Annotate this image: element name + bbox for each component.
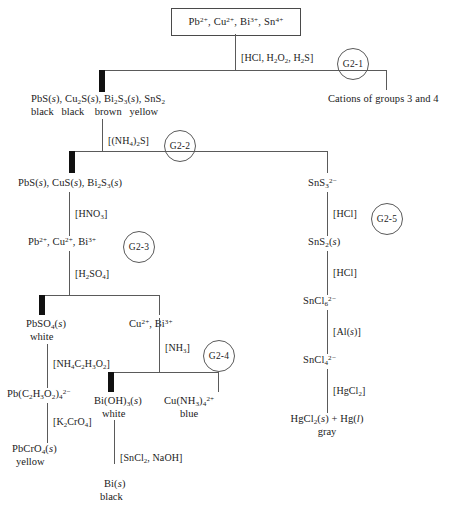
reagent-mercuric-chloride: [HgCl2]: [333, 385, 365, 397]
node-sulfide-mixture-colors: black black brown yellow: [31, 106, 158, 117]
precipitate-bar-step2: [69, 151, 75, 173]
reagent-ammonium-acetate: [NH4C2H3O2]: [53, 358, 110, 370]
step-label-g2-4: G2-4: [203, 340, 235, 372]
connector-ammonia-right: [218, 372, 219, 392]
connector-to-step3: [69, 192, 70, 236]
node-bismuth-metal-color: black: [100, 491, 123, 502]
connector-to-step2: [102, 119, 103, 151]
node-lead-chromate: PbCrO4(s): [12, 443, 57, 456]
node-copper-ammine-color: blue: [180, 408, 198, 419]
reagent-nitric-acid: [HNO3]: [75, 208, 107, 220]
precipitate-bar-step1: [99, 70, 105, 92]
reagent-hcl-tin-1: [HCl]: [333, 208, 357, 219]
qualitative-analysis-flowchart: Pb2+, Cu2+, Bi3+, Sn4+ [HCl, H2O2, H2S] …: [0, 0, 463, 511]
node-bismuth-hydroxide-color: white: [102, 408, 125, 419]
connector-to-acetate: [47, 344, 48, 388]
connector-to-chromate: [47, 403, 48, 443]
node-sulfide-mixture: PbS(s), Cu2S(s), Bi2S3(s), SnS2: [31, 93, 165, 106]
reagent-ammonium-sulfide: [(NH4)2S]: [108, 135, 149, 147]
connector-tin-2: [327, 251, 328, 295]
connector-step2-right: [327, 151, 328, 173]
connector-step1-right: [386, 70, 387, 90]
node-copper-ammine: Cu(NH3)42+: [164, 395, 214, 409]
precipitate-bar-sulfate: [39, 295, 45, 315]
node-thiostannate: SnS32−: [308, 177, 337, 191]
split-line-step2: [71, 151, 327, 152]
node-tetrachlorostannate: SnCl42−: [303, 354, 336, 368]
connector-tin-4: [327, 369, 328, 413]
reagent-potassium-chromate: [K2CrO4]: [53, 416, 92, 428]
split-line-sulfate: [41, 295, 159, 296]
start-box: Pb2+, Cu2+, Bi3+, Sn4+: [171, 8, 301, 36]
node-lead-acetate-complex: Pb(C2H3O2)42−: [7, 388, 70, 402]
node-pb-cu-bi-ions: Pb2+, Cu2+, Bi3+: [28, 236, 96, 249]
node-tin-disulfide: SnS2(s): [308, 236, 340, 249]
connector-to-bismuth-metal: [114, 420, 115, 464]
step-label-g2-1: G2-1: [337, 48, 369, 80]
connector-tin-1: [327, 192, 328, 236]
step-label-g2-5: G2-5: [371, 203, 403, 235]
step-label-g2-3: G2-3: [123, 231, 155, 263]
reagent-sulfuric-acid: [H2SO4]: [75, 268, 109, 280]
connector-to-step4: [69, 251, 70, 295]
start-box-label: Pb2+, Cu2+, Bi3+, Sn4+: [189, 16, 284, 27]
reagent-hcl-h2o2-h2s: [HCl, H2O2, H2S]: [241, 52, 313, 64]
node-acid-insoluble-sulfides: PbS(s), CuS(s), Bi2S3(s): [18, 177, 122, 190]
node-lead-chromate-color: yellow: [16, 456, 45, 467]
reagent-aluminum: [Al(s)]: [333, 326, 361, 337]
split-line-step1: [101, 70, 386, 71]
node-mercury-products-color: gray: [277, 426, 377, 437]
split-line-ammonia: [110, 372, 218, 373]
node-lead-sulfate-color: white: [30, 331, 53, 342]
precipitate-bar-ammonia: [108, 372, 114, 392]
reagent-ammonia: [NH3]: [165, 342, 190, 354]
node-lead-sulfate: PbSO4(s): [26, 318, 66, 331]
node-hexachlorostannate: SnCl62−: [303, 295, 336, 309]
reagent-stannous-chloride-naoh: [SnCl2, NaOH]: [120, 452, 182, 464]
node-cu-bi-ions: Cu2+, Bi3+: [129, 318, 173, 331]
step-label-g2-2: G2-2: [164, 130, 196, 162]
node-mercury-products: HgCl2(s) + Hg(l): [277, 413, 377, 426]
reagent-hcl-tin-2: [HCl]: [333, 267, 357, 278]
connector-tin-3: [327, 310, 328, 354]
node-bismuth-metal: Bi(s): [104, 478, 126, 490]
node-groups-3-and-4: Cations of groups 3 and 4: [328, 93, 439, 105]
connector-to-step5: [159, 318, 160, 372]
connector-start-to-step1: [235, 34, 236, 70]
node-bismuth-hydroxide: Bi(OH)3(s): [94, 395, 142, 408]
connector-sulfate-right: [159, 295, 160, 315]
